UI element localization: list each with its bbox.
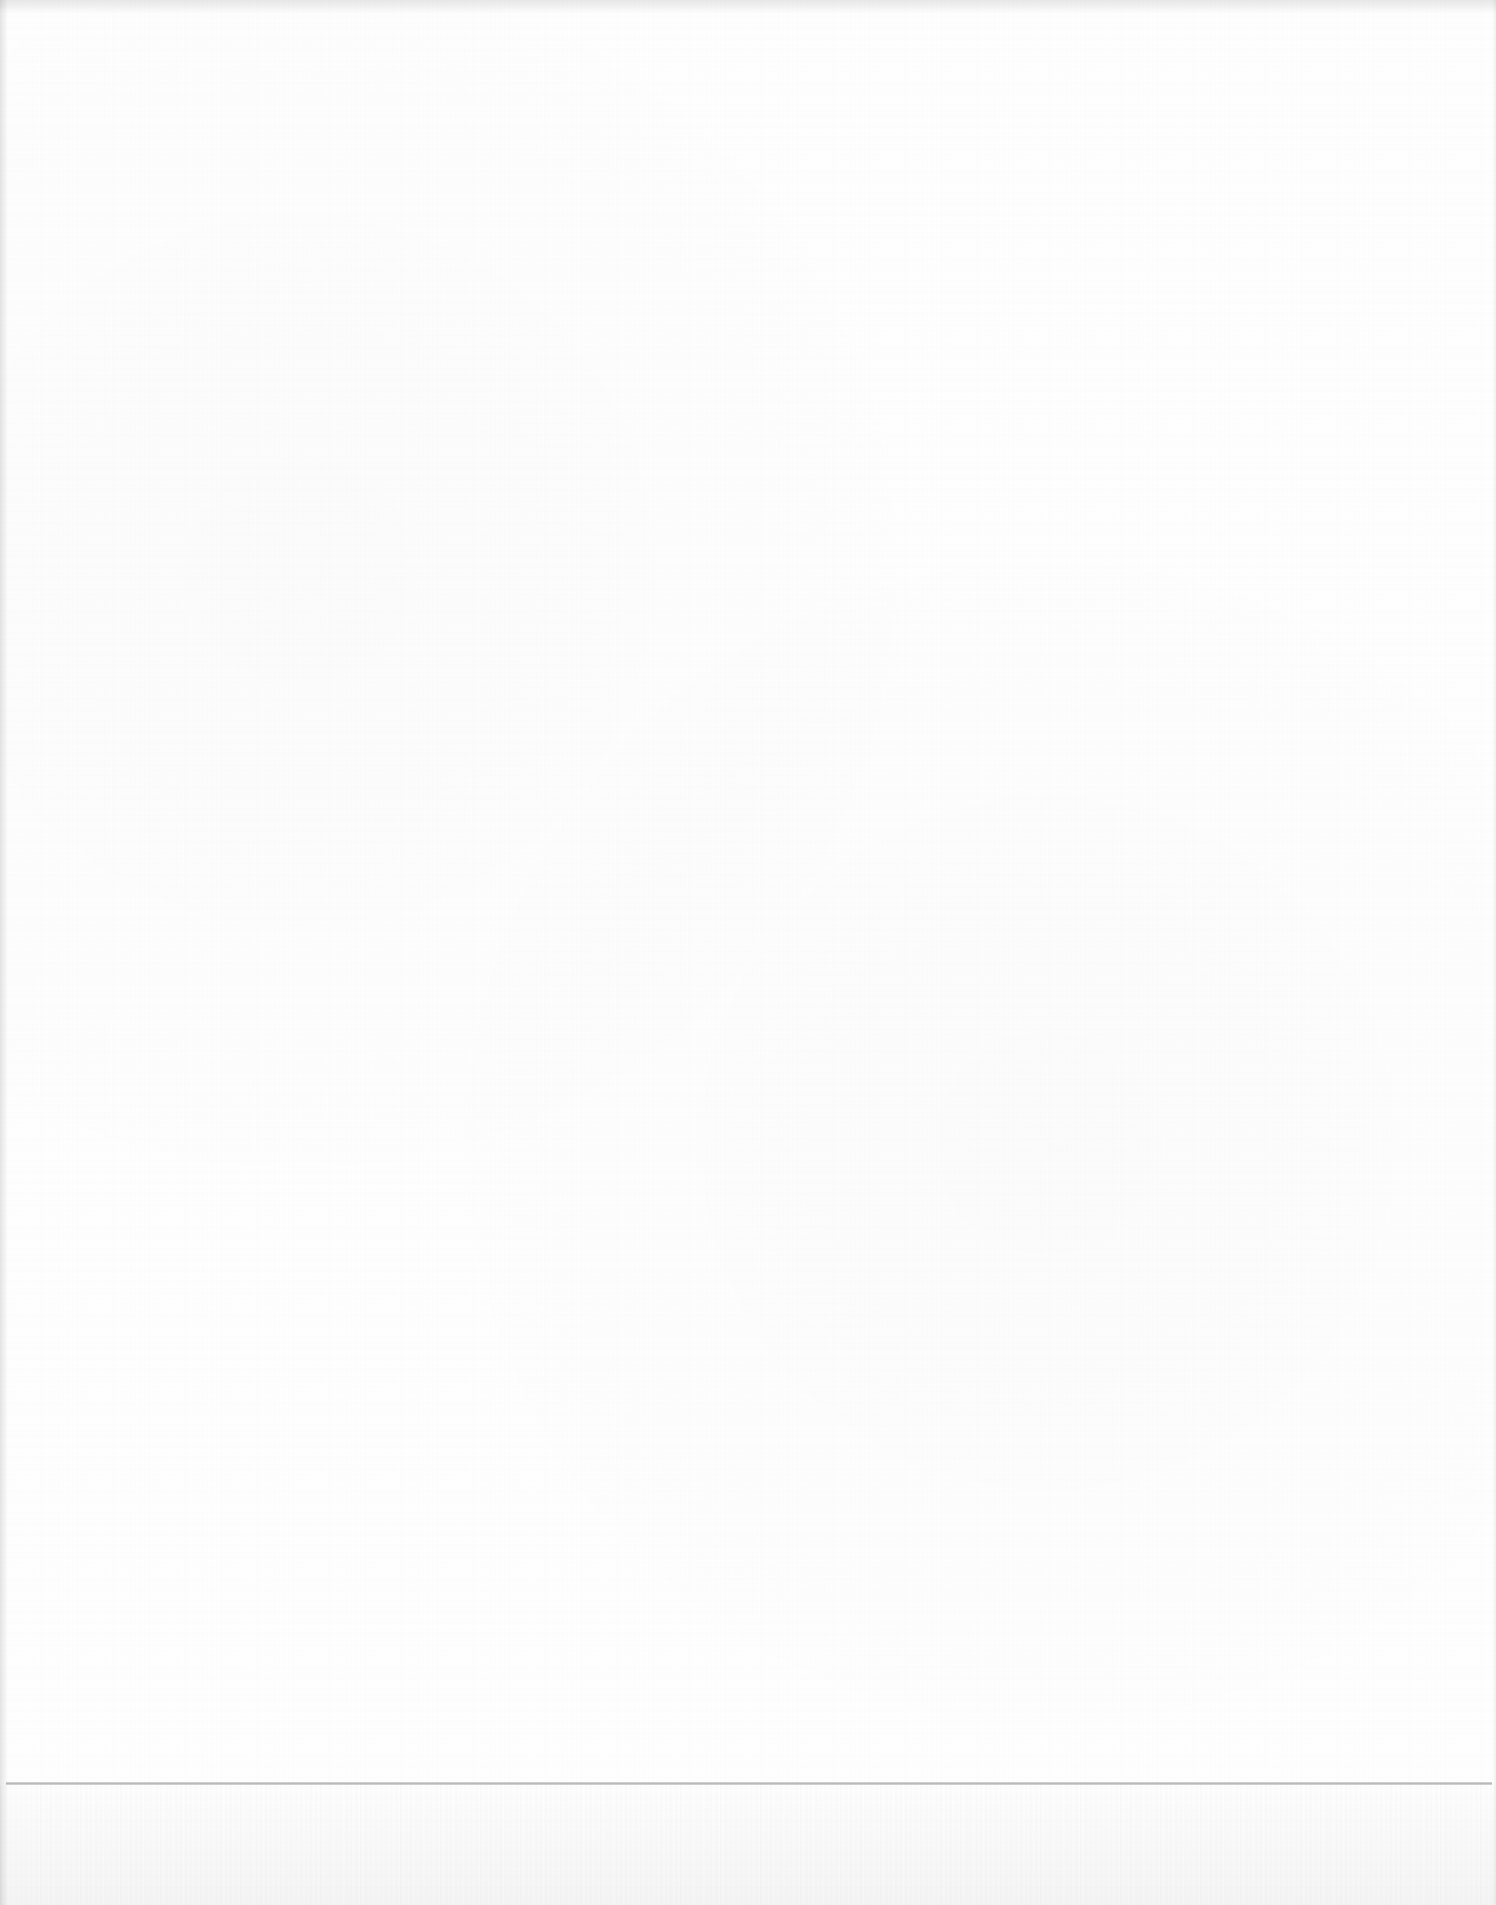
scan-edge-right [1492,0,1496,1905]
blank-page [0,0,1496,1905]
scan-edge-left [0,0,8,1905]
scan-edge-top [0,0,1496,14]
bottom-margin-band [0,1785,1496,1905]
